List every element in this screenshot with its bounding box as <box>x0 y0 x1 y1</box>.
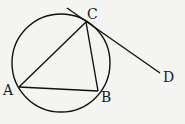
circle <box>12 14 110 112</box>
label-c: C <box>87 6 98 22</box>
diagram-svg: A B C D <box>0 0 185 124</box>
segment-ac <box>19 22 86 87</box>
geometry-diagram: A B C D <box>0 0 185 124</box>
label-a: A <box>2 82 14 98</box>
segment-ab <box>19 87 98 91</box>
label-b: B <box>101 89 111 105</box>
label-d: D <box>163 69 174 85</box>
tangent-line-cd <box>67 8 160 73</box>
segment-cb <box>86 22 98 91</box>
